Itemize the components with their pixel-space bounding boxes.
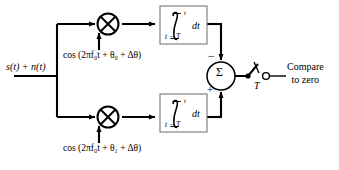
oscillator-label-top: cos (2πf₀t + θ₀ + Δθ): [63, 50, 141, 61]
block-diagram-figure: s(t) + n(t) cos (2πf₀t + θ₀ + Δθ) cos (2…: [0, 0, 339, 170]
multiplier-bottom: [98, 107, 119, 128]
integral-differential-bottom: dt: [192, 108, 200, 120]
multiplier-top: [98, 14, 119, 35]
integral-differential-top: dt: [192, 20, 200, 32]
input-signal-label: s(t) + n(t): [6, 61, 46, 73]
integral-lower-limit-bottom: t − T: [165, 121, 180, 130]
compare-line-2: to zero: [287, 73, 324, 86]
integral-lower-limit-top: t − T: [165, 33, 180, 42]
sampler-period-label: T: [254, 80, 260, 92]
summer-sigma-symbol: Σ: [216, 66, 223, 80]
oscillator-label-bottom: cos (2πf₀t + θ₁ + Δθ): [63, 143, 141, 154]
compare-to-zero-label: Compare to zero: [287, 60, 324, 86]
sampling-switch: [235, 62, 286, 79]
summer-plus-sign: +: [207, 83, 213, 96]
integral-upper-limit-top: t: [184, 9, 186, 17]
summer-minus-sign: −: [208, 50, 215, 64]
compare-line-1: Compare: [287, 60, 324, 73]
integral-upper-limit-bottom: t: [184, 97, 186, 105]
